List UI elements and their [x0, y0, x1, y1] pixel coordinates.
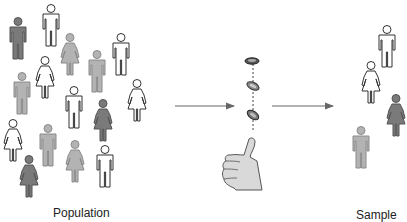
- woman-figure-icon: [20, 156, 38, 198]
- woman-figure-icon: [36, 57, 54, 99]
- woman-figure-icon: [4, 120, 22, 162]
- sample-figures: [353, 26, 405, 169]
- diagram-canvas: [0, 0, 407, 222]
- man-figure-icon: [40, 125, 56, 167]
- coin-icon: [245, 108, 260, 122]
- man-figure-icon: [379, 26, 395, 68]
- coin-icon: [245, 58, 259, 64]
- woman-figure-icon: [61, 34, 79, 76]
- man-figure-icon: [97, 146, 113, 188]
- woman-figure-icon: [128, 80, 146, 122]
- coin-flip-icon: [223, 58, 263, 190]
- man-figure-icon: [43, 5, 59, 47]
- woman-figure-icon: [387, 95, 405, 137]
- woman-figure-icon: [362, 62, 380, 104]
- man-figure-icon: [10, 18, 26, 60]
- woman-figure-icon: [66, 141, 84, 183]
- man-figure-icon: [113, 34, 129, 76]
- thumbs-up-hand-icon: [223, 138, 263, 190]
- sample-label: Sample: [356, 208, 397, 222]
- woman-figure-icon: [94, 100, 112, 142]
- man-figure-icon: [353, 127, 369, 169]
- man-figure-icon: [14, 73, 30, 115]
- coin-icon: [246, 80, 261, 92]
- population-label: Population: [53, 206, 110, 220]
- man-figure-icon: [66, 87, 82, 129]
- man-figure-icon: [89, 51, 105, 93]
- sampling-diagram: Population Sample: [0, 0, 407, 222]
- population-figures: [4, 5, 146, 198]
